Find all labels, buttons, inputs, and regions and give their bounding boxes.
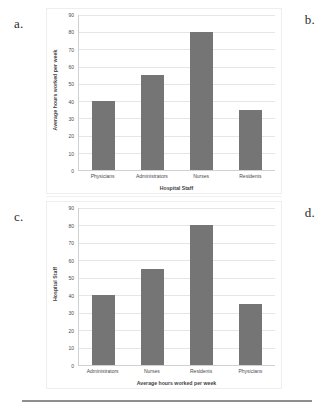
bar-administrators [92, 295, 115, 365]
panel-label-b: b. [305, 12, 315, 28]
y-tick-label: 20 [68, 134, 74, 139]
bar-nurses [141, 269, 164, 365]
x-tick-label: Residents [177, 366, 226, 376]
bar-residents [190, 225, 213, 365]
figure-bottom-rule [22, 400, 312, 402]
y-tick-label: 0 [71, 169, 74, 174]
y-tick-label: 10 [68, 346, 74, 351]
y-tick-label: 30 [68, 311, 74, 316]
y-axis-ticks-bottom: 9080706050403020100 [60, 208, 76, 366]
y-tick-label: 70 [68, 47, 74, 52]
x-tick-label: Physicians [226, 366, 275, 376]
y-tick-label: 0 [71, 364, 74, 369]
x-tick-label: Nurses [177, 171, 226, 181]
bar-slot [226, 208, 275, 365]
x-tick-label: Administrators [127, 171, 176, 181]
x-tick-label: Nurses [127, 366, 176, 376]
x-tick-label: Physicians [78, 171, 127, 181]
x-axis-title-bottom: Average hours worked per week [78, 380, 275, 386]
panel-separator [46, 196, 282, 197]
x-axis-ticks-top: PhysiciansAdministratorsNursesResidents [78, 171, 275, 181]
panel-label-a: a. [14, 16, 23, 32]
y-tick-label: 60 [68, 258, 74, 263]
y-tick-label: 80 [68, 30, 74, 35]
x-tick-label: Residents [226, 171, 275, 181]
y-axis-title-top-text: Average hours worked per week [52, 50, 58, 131]
bar-slot [226, 15, 275, 170]
x-axis-ticks-bottom: AdministratorsNursesResidentsPhysicians [78, 366, 275, 376]
x-axis-title-top: Hospital Staff [78, 185, 275, 191]
bar-chart-top: Average hours worked per week 9080706050… [46, 8, 282, 194]
y-tick-label: 30 [68, 117, 74, 122]
y-tick-label: 60 [68, 65, 74, 70]
bar-series-bottom [79, 208, 275, 365]
bar-physicians [239, 304, 262, 365]
y-tick-label: 50 [68, 82, 74, 87]
bar-slot [128, 15, 177, 170]
y-tick-label: 10 [68, 151, 74, 156]
y-tick-label: 90 [68, 13, 74, 18]
bar-slot [79, 208, 128, 365]
bar-slot [177, 15, 226, 170]
plot-area-top [78, 15, 275, 171]
y-axis-ticks-top: 9080706050403020100 [60, 15, 76, 171]
y-tick-label: 40 [68, 293, 74, 298]
figure-panel-c: c. d. Hospital Staff 9080706050403020100… [0, 201, 326, 389]
x-tick-label: Administrators [78, 366, 127, 376]
y-axis-title-bottom-text: Hospital Staff [52, 267, 58, 301]
bar-administrators [141, 75, 164, 170]
bar-slot [128, 208, 177, 365]
y-tick-label: 50 [68, 276, 74, 281]
y-tick-label: 90 [68, 206, 74, 211]
bar-nurses [190, 32, 213, 170]
panel-label-d: d. [305, 205, 315, 221]
bar-residents [239, 110, 262, 170]
bar-physicians [92, 101, 115, 170]
y-tick-label: 80 [68, 223, 74, 228]
bar-chart-bottom: Hospital Staff 9080706050403020100 Admin… [46, 201, 282, 389]
y-tick-label: 70 [68, 241, 74, 246]
bar-slot [177, 208, 226, 365]
figure-page: a. b. Average hours worked per week 9080… [0, 0, 326, 410]
plot-area-bottom [78, 208, 275, 366]
panel-label-c: c. [14, 209, 23, 225]
bar-series-top [79, 15, 275, 170]
y-tick-label: 40 [68, 99, 74, 104]
y-tick-label: 20 [68, 328, 74, 333]
bar-slot [79, 15, 128, 170]
figure-panel-a: a. b. Average hours worked per week 9080… [0, 8, 326, 194]
